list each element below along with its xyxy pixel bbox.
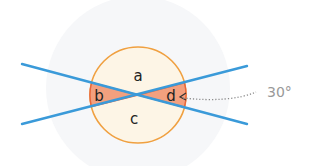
label-c: c — [130, 110, 138, 128]
label-b: b — [94, 87, 104, 105]
label-a: a — [133, 67, 142, 85]
label-d: d — [166, 87, 176, 105]
angle-diagram: abcd30° — [0, 0, 310, 166]
diagram-canvas: abcd30° — [0, 0, 310, 166]
angle-annotation: 30° — [267, 84, 292, 100]
